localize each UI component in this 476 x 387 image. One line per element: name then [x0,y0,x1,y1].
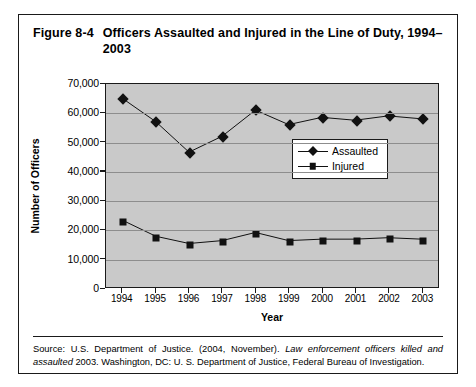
x-axis-tick [221,288,222,293]
x-axis-tick [422,288,423,293]
source-prefix: Source: U.S. Department of Justice. (200… [33,344,285,354]
gridline [106,260,438,261]
legend-item-assaulted: Assaulted [298,144,378,159]
square-marker-icon [386,236,393,243]
legend-label: Assaulted [332,145,378,157]
y-axis-tick-label: 30,000 [39,194,105,206]
source-note-text: Source: U.S. Department of Justice. (200… [33,343,443,368]
square-marker-icon [320,237,327,244]
x-axis-tick [255,288,256,293]
figure-container: Figure 8-4 Officers Assaulted and Injure… [18,14,458,374]
y-axis-tick-label: 20,000 [39,223,105,235]
x-axis-tick [355,288,356,293]
y-axis-title-label: Number of Officers [29,138,41,233]
gridline [106,113,438,114]
plot-region: Assaulted Injured [105,83,439,288]
y-axis-tick-label: 60,000 [39,106,105,118]
y-axis-tick-label: 70,000 [39,77,105,89]
square-marker-icon [219,239,226,246]
x-axis-tick [322,288,323,293]
diamond-marker-icon [298,146,328,157]
x-axis-tick-label: 2003 [399,293,445,304]
legend-label: Injured [332,160,364,172]
x-axis-title: Year [105,311,439,323]
x-axis-tick [121,288,122,293]
x-axis-tick [288,288,289,293]
y-axis-tick-label: 40,000 [39,165,105,177]
x-axis-tick [188,288,189,293]
chart-area: Number of Officers 010,00020,00030,00040… [33,71,445,333]
gridline [106,230,438,231]
gridline [106,143,438,144]
square-marker-icon [186,242,193,249]
square-marker-icon [353,237,360,244]
gridline [106,172,438,173]
gridline [106,201,438,202]
square-marker-icon [420,237,427,244]
series-line-injured [123,220,422,243]
y-axis-tick-label: 50,000 [39,136,105,148]
source-note: Source: U.S. Department of Justice. (200… [33,336,443,368]
x-axis-tick [388,288,389,293]
source-suffix: 2003. Washington, DC: U. S. Department o… [73,357,425,367]
figure-number: Figure 8-4 [33,25,94,41]
square-marker-icon [119,218,126,225]
y-axis-tick-label: 0 [39,282,105,294]
square-marker-icon [253,230,260,237]
square-marker-icon [298,161,328,172]
page-title: Officers Assaulted and Injured in the Li… [103,25,445,57]
x-axis-tick [155,288,156,293]
square-marker-icon [286,239,293,246]
figure-title-block: Figure 8-4 Officers Assaulted and Injure… [33,25,445,57]
square-marker-icon [153,234,160,241]
y-axis-tick-label: 10,000 [39,253,105,265]
